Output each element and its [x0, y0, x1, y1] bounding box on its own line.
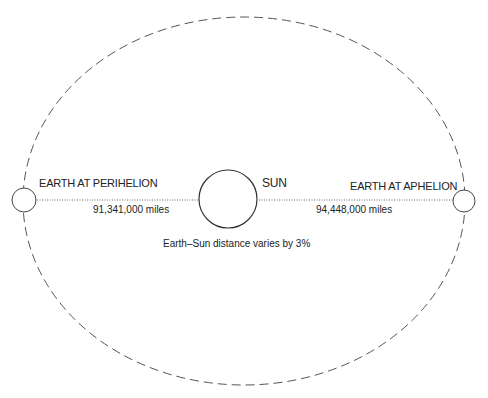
perihelion-distance: 91,341,000 miles — [93, 204, 169, 215]
aphelion-label: EARTH AT APHELION — [350, 180, 457, 192]
sun-label: SUN — [262, 176, 287, 190]
sun-circle — [199, 170, 257, 228]
orbit-diagram — [0, 0, 488, 398]
caption: Earth–Sun distance varies by 3% — [163, 238, 310, 249]
earth-perihelion-circle — [12, 188, 36, 212]
perihelion-label: EARTH AT PERIHELION — [39, 177, 157, 189]
earth-aphelion-circle — [453, 190, 475, 212]
aphelion-distance: 94,448,000 miles — [316, 204, 392, 215]
